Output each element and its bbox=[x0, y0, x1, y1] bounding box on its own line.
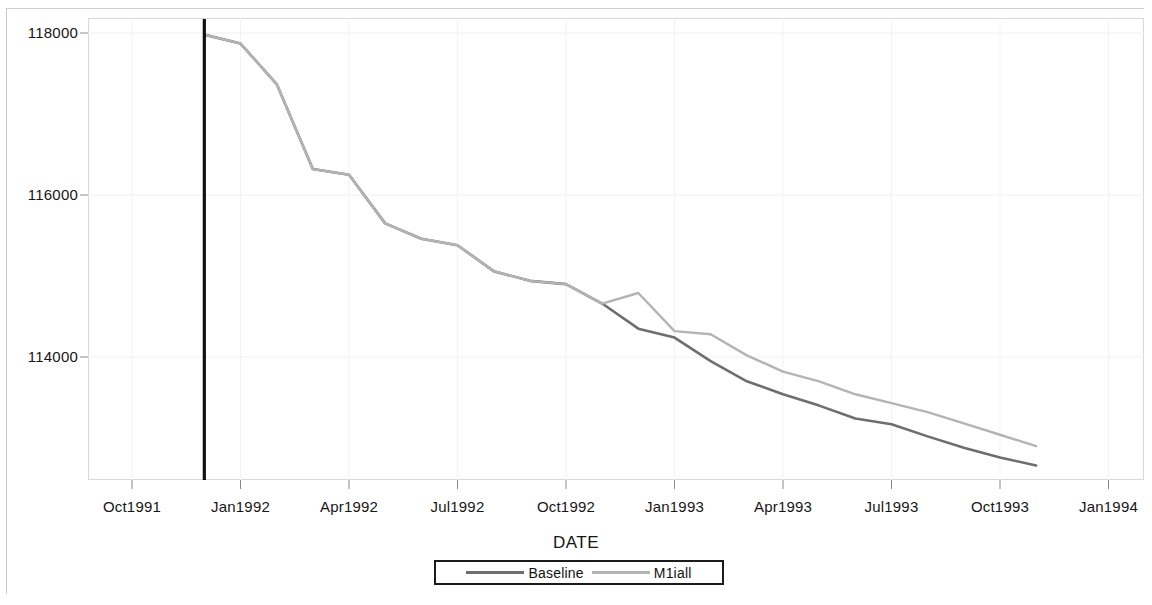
xtick-label-oct1992: Oct1992 bbox=[506, 499, 626, 514]
series-lines-group bbox=[204, 35, 1036, 466]
xtick-label-jan1993: Jan1993 bbox=[615, 499, 735, 514]
baseline-line-swatch bbox=[466, 571, 524, 574]
legend-label-m1iall: M1iall bbox=[654, 566, 692, 580]
xtick-label-jul1992: Jul1992 bbox=[398, 499, 518, 514]
legend-label-baseline: Baseline bbox=[528, 566, 583, 580]
xtick-label-oct1993: Oct1993 bbox=[940, 499, 1060, 514]
ytick-label-116000: 116000 bbox=[10, 187, 78, 202]
x-axis-title: DATE bbox=[0, 533, 1152, 553]
ytick-label-114000: 114000 bbox=[10, 349, 78, 364]
chart-legend: Baseline M1iall bbox=[434, 560, 724, 585]
xtick-label-apr1993: Apr1993 bbox=[723, 499, 843, 514]
xtick-label-apr1992: Apr1992 bbox=[289, 499, 409, 514]
xtick-label-oct1991: Oct1991 bbox=[72, 499, 192, 514]
series-line-baseline bbox=[204, 35, 1036, 466]
m1iall-line-swatch bbox=[592, 571, 650, 574]
legend-item-m1iall: M1iall bbox=[588, 566, 696, 580]
series-line-m1iall bbox=[204, 35, 1036, 446]
xtick-label-jan1994: Jan1994 bbox=[1049, 499, 1152, 514]
xtick-label-jan1992: Jan1992 bbox=[181, 499, 301, 514]
gridlines-group bbox=[88, 18, 1144, 480]
chart-figure: 118000 116000 114000 Oct1991 Jan1992 Apr… bbox=[0, 0, 1152, 605]
ytick-label-118000: 118000 bbox=[10, 25, 78, 40]
xtick-label-jul1993: Jul1993 bbox=[832, 499, 952, 514]
legend-item-baseline: Baseline bbox=[462, 566, 587, 580]
